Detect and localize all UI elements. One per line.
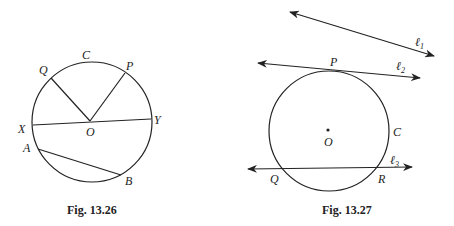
line-l1: [290, 12, 434, 56]
geometry-figures: C Q P X O Y A B Fig. 13.26 ℓ1 ℓ2 ℓ3 P O …: [0, 0, 454, 226]
chord-AB: [38, 149, 121, 175]
label-l1: ℓ1: [415, 35, 424, 51]
label-P: P: [125, 59, 134, 73]
label-P: P: [329, 55, 338, 69]
label-X: X: [17, 122, 26, 136]
label-Y: Y: [154, 113, 162, 127]
radius-OQ: [51, 78, 90, 121]
label-l3: ℓ3: [390, 153, 399, 169]
center-point: [326, 128, 329, 131]
label-B: B: [125, 174, 133, 188]
secant-l3: [248, 167, 412, 169]
figure-13-27: ℓ1 ℓ2 ℓ3 P O C Q R Fig. 13.27: [248, 12, 434, 217]
figure-13-26: C Q P X O Y A B Fig. 13.26: [17, 48, 162, 217]
label-O: O: [86, 125, 95, 139]
caption: Fig. 13.26: [67, 203, 117, 217]
label-Q: Q: [39, 63, 48, 77]
label-O: O: [324, 135, 333, 149]
label-Q: Q: [270, 172, 279, 186]
label-C: C: [393, 125, 402, 139]
label-l2: ℓ2: [396, 59, 405, 75]
radius-OP: [90, 73, 125, 121]
label-R: R: [377, 172, 386, 186]
label-A: A: [22, 141, 31, 155]
label-C: C: [82, 48, 91, 62]
caption: Fig. 13.27: [322, 203, 372, 217]
